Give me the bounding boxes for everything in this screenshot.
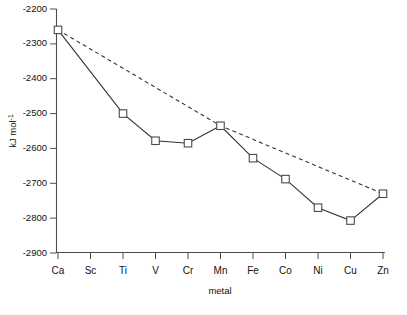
data-point-marker-ti: [119, 110, 127, 118]
y-tick-label: -2900: [23, 247, 47, 258]
y-tick-label: -2400: [23, 72, 47, 83]
data-point-marker-ca: [54, 26, 62, 34]
x-tick-label-zn: Zn: [377, 265, 389, 276]
y-tick-marks: [50, 9, 57, 253]
data-point-marker-mn: [217, 122, 225, 129]
data-point-marker-cr: [184, 139, 192, 147]
y-axis-title-base: kJ mol: [7, 120, 18, 147]
x-tick-label-ni: Ni: [313, 265, 322, 276]
x-tick-label-v: V: [152, 265, 159, 276]
data-point-marker-ni: [314, 204, 322, 212]
x-tick-label-cr: Cr: [183, 265, 194, 276]
y-tick-label: -2800: [23, 212, 47, 223]
x-tick-label-ti: Ti: [119, 265, 127, 276]
x-tick-label-co: Co: [279, 265, 292, 276]
data-point-marker-zn: [379, 190, 387, 198]
trend-line-dashed: [58, 30, 383, 194]
y-axis-title-exponent: -1: [7, 114, 14, 120]
x-tick-label-ca: Ca: [52, 265, 65, 276]
y-tick-label: -2600: [23, 142, 47, 153]
y-tick-labels: -2200 -2300 -2400 -2500 -2600 -2700 -280…: [23, 3, 47, 258]
data-point-markers: [54, 26, 387, 224]
y-tick-label: -2700: [23, 177, 47, 188]
svg-text:kJ mol-1: kJ mol-1: [7, 114, 19, 148]
x-tick-label-sc: Sc: [85, 265, 97, 276]
data-point-marker-co: [282, 175, 290, 183]
data-point-marker-v: [152, 137, 160, 145]
chart-figure: -2200 -2300 -2400 -2500 -2600 -2700 -280…: [0, 0, 407, 315]
y-tick-label: -2500: [23, 107, 47, 118]
x-tick-label-mn: Mn: [214, 265, 228, 276]
y-tick-label: -2200: [23, 3, 47, 14]
line-chart: -2200 -2300 -2400 -2500 -2600 -2700 -280…: [0, 0, 407, 315]
x-tick-label-fe: Fe: [247, 265, 259, 276]
y-axis-title: kJ mol-1: [7, 114, 19, 148]
x-tick-marks: [58, 253, 383, 260]
data-point-marker-cu: [347, 217, 355, 225]
x-tick-label-cu: Cu: [344, 265, 357, 276]
x-tick-labels: Ca Sc Ti V Cr Mn Fe Co Ni Cu Zn: [52, 265, 389, 276]
x-axis-title: metal: [208, 285, 231, 296]
y-tick-label: -2300: [23, 37, 47, 48]
data-point-marker-fe: [249, 154, 257, 162]
